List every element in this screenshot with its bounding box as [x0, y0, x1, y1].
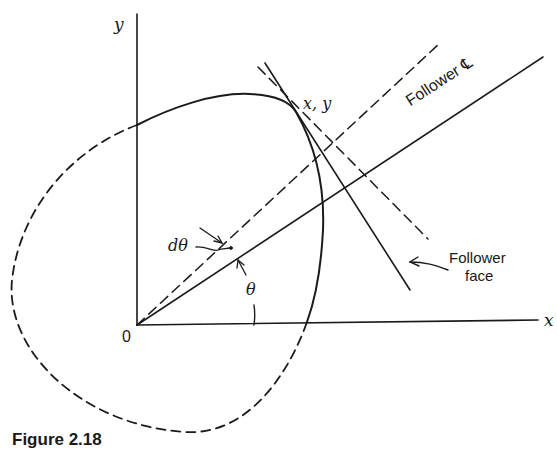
d-theta-arrow-lower [238, 260, 246, 275]
rotated-centerline-dashed [137, 43, 440, 325]
y-axis-label: y [114, 16, 124, 33]
follower-face-label-line2: face [465, 268, 493, 283]
theta-label: θ [246, 282, 256, 298]
origin-label: 0 [122, 329, 131, 345]
follower-face-dashed [258, 67, 428, 239]
follower-centerline [137, 57, 543, 325]
x-axis-label: x [544, 312, 554, 329]
d-theta-leader [196, 247, 230, 251]
figure-caption: Figure 2.18 [12, 430, 102, 450]
follower-face-label-line1: Follower [449, 250, 506, 265]
d-theta-arrow-upper [200, 228, 222, 243]
d-theta-label: dθ [168, 238, 188, 254]
follower-face-leader [410, 262, 448, 270]
cam-profile-solid [137, 94, 323, 322]
contact-point-label: x, y [303, 96, 331, 112]
x-axis [137, 320, 538, 325]
cam-profile-dashed [12, 125, 307, 432]
d-theta-dot [230, 247, 233, 250]
theta-angle-arc [254, 305, 255, 325]
